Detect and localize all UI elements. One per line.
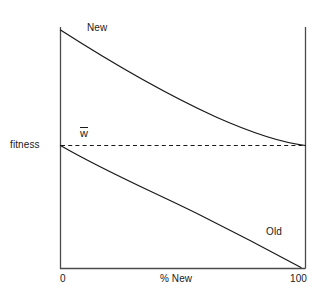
mean-fitness-symbol: w [80,127,88,139]
fitness-chart-figure: fitness New Old w 0 % New 100 [0,0,331,302]
new-series-curve [61,30,306,146]
mean-fitness-label: w [80,127,88,139]
series-label-old: Old [266,227,282,237]
series-label-new: New [87,23,107,33]
x-tick-label-100: 100 [290,274,307,284]
y-axis-label: fitness [10,140,40,150]
old-series-curve [61,146,302,268]
x-axis-label: % New [160,274,192,284]
x-tick-label-0: 0 [60,274,66,284]
chart-plot-area [0,0,331,302]
